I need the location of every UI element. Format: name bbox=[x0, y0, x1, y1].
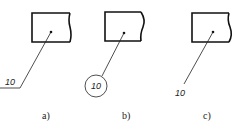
diagram-canvas: 10 a) 10 b) 10 c) bbox=[0, 0, 236, 128]
part-rectangle-a bbox=[32, 13, 71, 42]
caption-c: c) bbox=[203, 110, 211, 122]
part-rectangle-c bbox=[192, 13, 231, 42]
leader-line-c bbox=[184, 32, 213, 84]
part-rectangle-b bbox=[105, 12, 144, 41]
caption-a: a) bbox=[42, 110, 50, 122]
callout-number-a: 10 bbox=[5, 77, 15, 87]
callout-number-c: 10 bbox=[175, 88, 185, 98]
panel-a: 10 a) bbox=[0, 13, 71, 122]
callout-number-b: 10 bbox=[91, 81, 101, 91]
caption-b: b) bbox=[122, 110, 130, 122]
panel-b: 10 b) bbox=[85, 12, 144, 122]
panel-c: 10 c) bbox=[175, 13, 231, 122]
